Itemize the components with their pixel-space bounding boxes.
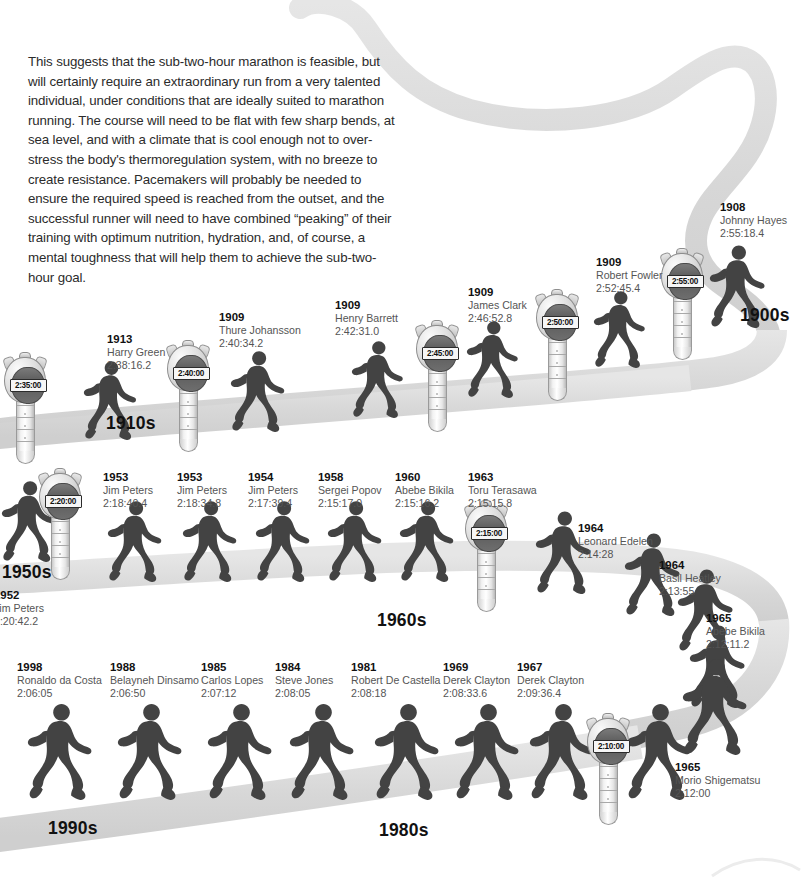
record-athlete: Henry Barrett [335, 312, 398, 325]
record-year: 1981 [351, 660, 441, 674]
record-label: 1965Morio Shigematsu2:12:00 [675, 760, 760, 800]
infographic-page: This suggests that the sub-two-hour mara… [0, 0, 805, 881]
record-year: 1964 [659, 558, 721, 572]
record-label: 1909Robert Fowler2:52:45.4 [596, 255, 663, 295]
record-year: 1963 [468, 470, 537, 484]
runner-silhouette [256, 501, 309, 582]
record-year: 1909 [468, 285, 527, 299]
record-year: 1953 [103, 470, 153, 484]
record-athlete: Belayneh Dinsamo [110, 674, 199, 687]
record-time: 2:06:05 [17, 687, 102, 700]
record-label: 1967Derek Clayton2:09:36.4 [517, 660, 584, 700]
record-year: 1967 [517, 660, 584, 674]
record-label: 1958Sergei Popov2:15:17.0 [318, 470, 382, 510]
record-athlete: Jim Peters [0, 602, 44, 615]
record-label: 1985Carlos Lopes2:07:12 [201, 660, 263, 700]
record-athlete: Derek Clayton [443, 674, 510, 687]
record-athlete: Jim Peters [103, 484, 153, 497]
record-year: 1958 [318, 470, 382, 484]
stopwatch-strap-tip [673, 347, 692, 360]
record-athlete: Ronaldo da Costa [17, 674, 102, 687]
record-time: 2:13:55 [659, 585, 721, 598]
record-year: 1913 [107, 332, 165, 346]
stopwatch-strap-tip [179, 439, 198, 452]
stopwatch-display: 2:10:00 [593, 740, 630, 753]
stopwatch: 2:50:00 [534, 289, 580, 397]
stopwatch-strap-tip [16, 451, 35, 464]
stopwatch-strap-tip [477, 599, 496, 612]
stopwatch-display: 2:45:00 [422, 347, 459, 360]
record-label: 1913Harry Green2:38:16.2 [107, 332, 165, 372]
stopwatch-case: 2:20:00 [39, 473, 81, 519]
stopwatch-case: 2:45:00 [416, 325, 458, 371]
runner-silhouette [28, 704, 92, 800]
record-label: 1969Derek Clayton2:08:33.6 [443, 660, 510, 700]
record-year: 1998 [17, 660, 102, 674]
runner-silhouette [118, 704, 182, 800]
stopwatch: 2:15:00 [463, 500, 509, 608]
record-athlete: Abebe Bikila [395, 484, 454, 497]
record-label: 1965Abebe Bikila2:12:11.2 [706, 611, 765, 651]
record-label: 1908Johnny Hayes2:55:18.4 [720, 200, 787, 240]
runner-silhouette [108, 501, 161, 582]
stopwatch-display: 2:20:00 [45, 495, 82, 508]
record-year: 1960 [395, 470, 454, 484]
record-athlete: Thure Johansson [219, 324, 301, 337]
record-time: 2:08:18 [351, 687, 441, 700]
runner-silhouette [467, 321, 518, 398]
record-label: 1964Leonard Edelen2:14:28 [578, 521, 653, 561]
stopwatch-strap-tip [548, 388, 567, 401]
record-label: 1964Basil Heatley2:13:55 [659, 558, 721, 598]
record-label: 1963Toru Terasawa2:15:15.8 [468, 470, 537, 510]
runner-silhouette [183, 501, 236, 582]
record-label: 1909Henry Barrett2:42:31.0 [335, 298, 398, 338]
runner-silhouette [231, 351, 284, 432]
record-time: 2:18:34.8 [177, 497, 227, 510]
record-time: 2:12:11.2 [706, 638, 765, 651]
record-label: 1909James Clark2:46:52.8 [468, 285, 527, 325]
runner-silhouette [455, 704, 519, 800]
record-time: 2:18:40.4 [103, 497, 153, 510]
path-segment-bottom-arc [712, 859, 800, 876]
record-athlete: Leonard Edelen [578, 535, 653, 548]
stopwatch: 2:40:00 [165, 340, 211, 448]
record-athlete: Robert De Castella [351, 674, 441, 687]
record-time: 2:46:52.8 [468, 312, 527, 325]
record-year: 1965 [706, 611, 765, 625]
stopwatch-strap-tip [51, 567, 70, 580]
record-label: 1954Jim Peters2:17:39.4 [248, 470, 298, 510]
record-label: 1988Belayneh Dinsamo2:06:50 [110, 660, 199, 700]
stopwatch: 2:35:00 [2, 352, 48, 460]
record-year: 1965 [675, 760, 760, 774]
stopwatch: 2:55:00 [659, 248, 705, 356]
runner-silhouette [352, 341, 403, 418]
runner-silhouette [375, 704, 439, 800]
record-label: 1909Thure Johansson2:40:34.2 [219, 310, 301, 350]
record-year: 1909 [335, 298, 398, 312]
record-time: 2:15:17.0 [318, 497, 382, 510]
record-time: 2:15:15.8 [468, 497, 537, 510]
record-year: 1969 [443, 660, 510, 674]
record-athlete: Sergei Popov [318, 484, 382, 497]
record-time: 2:09:36.4 [517, 687, 584, 700]
record-year: 1954 [248, 470, 298, 484]
stopwatch-strap-tip [599, 812, 618, 825]
record-year: 1908 [720, 200, 787, 214]
record-label: 1953Jim Peters2:18:40.4 [103, 470, 153, 510]
record-label: 1998Ronaldo da Costa2:06:05 [17, 660, 102, 700]
runner-silhouette [328, 501, 381, 582]
stopwatch-case: 2:40:00 [167, 345, 209, 391]
stopwatch-display: 2:55:00 [667, 275, 704, 288]
record-time: 2:52:45.4 [596, 282, 663, 295]
record-label: 1981Robert De Castella2:08:18 [351, 660, 441, 700]
record-athlete: Steve Jones [275, 674, 333, 687]
record-athlete: Abebe Bikila [706, 625, 765, 638]
record-year: 1988 [110, 660, 199, 674]
runner-silhouette [530, 704, 594, 800]
record-athlete: Basil Heatley [659, 572, 721, 585]
intro-paragraph: This suggests that the sub-two-hour mara… [28, 52, 396, 287]
record-time: 2:40:34.2 [219, 337, 301, 350]
record-year: 1952 [0, 588, 44, 602]
decade-label: 1960s [377, 610, 427, 631]
record-label: 1984Steve Jones2:08:05 [275, 660, 333, 700]
